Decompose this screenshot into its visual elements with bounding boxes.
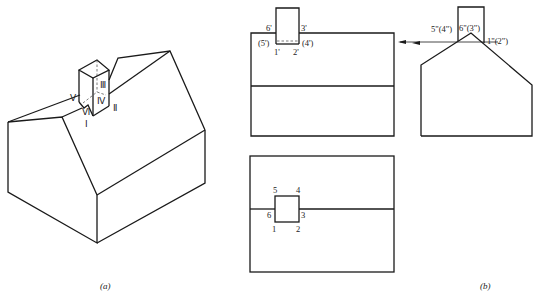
label-VI: Ⅵ	[82, 107, 90, 117]
isometric-house: Ⅴ Ⅵ Ⅰ Ⅲ Ⅳ Ⅱ (a)	[8, 51, 205, 291]
top-view: 5 4 6 3 1 2	[250, 156, 394, 272]
label-IV: Ⅳ	[97, 96, 106, 106]
tv-label-4: 4	[296, 185, 301, 195]
label-II: Ⅱ	[113, 103, 117, 113]
tv-label-2: 2	[296, 224, 300, 234]
sv-label-6-3: 6"(3")	[459, 23, 480, 33]
tv-label-5: 5	[273, 185, 277, 195]
front-wall	[97, 130, 205, 243]
caption-b: (b)	[480, 281, 491, 291]
front-view: 6' 3' (5') (4') 1' 2'	[251, 8, 394, 136]
back-roof-right	[109, 51, 205, 130]
caption-a: (a)	[100, 281, 111, 291]
drawing-canvas: Ⅴ Ⅵ Ⅰ Ⅲ Ⅳ Ⅱ (a) 6' 3' (5') (4') 1' 2' 5"…	[0, 0, 535, 294]
tv-label-1: 1	[272, 224, 276, 234]
label-V: Ⅴ	[70, 93, 77, 103]
tv-label-3: 3	[301, 210, 305, 220]
sv-label-1-2: 1"(2")	[487, 36, 508, 46]
fv-label-4: (4')	[302, 38, 314, 48]
sv-label-5-4: 5"(4")	[431, 24, 452, 34]
label-I: Ⅰ	[85, 119, 88, 129]
chimney-top	[79, 60, 109, 78]
label-III: Ⅲ	[100, 80, 106, 90]
side-view: 5"(4") 6"(3") 1"(2")	[398, 7, 532, 136]
fv-label-6: 6'	[266, 23, 272, 33]
gable-roof-edge	[8, 117, 97, 195]
tv-label-6: 6	[267, 210, 271, 220]
ridge-left	[62, 108, 82, 117]
fv-label-2: 2'	[293, 47, 299, 57]
gable-wall	[8, 122, 97, 243]
fv-label-5: (5')	[258, 38, 270, 48]
front-eave	[97, 130, 205, 195]
fv-label-3: 3'	[301, 23, 307, 33]
fv-label-1: 1'	[274, 47, 280, 57]
